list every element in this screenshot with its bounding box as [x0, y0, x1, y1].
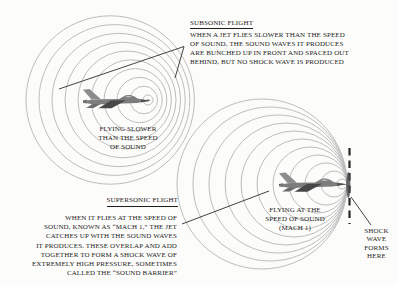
- text-line: (MACH 1): [245, 224, 345, 233]
- text-line: WHEN IT FLIES AT THE SPEED OF: [2, 214, 177, 223]
- subsonic-heading-text: SUBSONIC FLIGHT: [190, 19, 253, 30]
- text-line: CALLED THE “SOUND BARRIER”: [2, 269, 177, 278]
- supersonic-heading-text: SUPERSONIC FLIGHT: [107, 196, 178, 207]
- text-line: WHEN A JET FLIES SLOWER THAN THE SPEED: [190, 31, 349, 40]
- text-line: SOUND, KNOWN AS “MACH 1,” THE JET: [2, 223, 177, 232]
- supersonic-jet-label: FLYING AT THE SPEED OF SOUND (MACH 1): [245, 206, 345, 234]
- text-line: HERE: [356, 252, 397, 260]
- text-line: WAVE: [356, 235, 397, 243]
- shock-convergence-streak: [346, 172, 350, 198]
- text-line: FLYING AT THE: [245, 206, 345, 215]
- subsonic-description: WHEN A JET FLIES SLOWER THAN THE SPEED O…: [190, 31, 349, 68]
- text-line: OF SOUND: [73, 143, 183, 152]
- flight-sound-wave-diagram: SUBSONIC FLIGHT WHEN A JET FLIES SLOWER …: [0, 0, 397, 285]
- text-line: TOGETHER TO FORM A SHOCK WAVE OF: [2, 251, 177, 260]
- text-line: CATCHES UP WITH THE SOUND WAVES: [2, 232, 177, 241]
- supersonic-description: WHEN IT FLIES AT THE SPEED OF SOUND, KNO…: [2, 214, 177, 278]
- text-line: SHOCK: [356, 227, 397, 235]
- subsonic-pointer-line: [59, 47, 184, 90]
- supersonic-heading: SUPERSONIC FLIGHT: [58, 196, 178, 207]
- text-line: EXTREMELY HIGH PRESSURE, SOMETIMES: [2, 260, 177, 269]
- text-line: FLYING SLOWER: [73, 125, 183, 134]
- supersonic-jet: [279, 173, 347, 192]
- shock-pointer-line: [351, 197, 371, 225]
- text-line: FORMS: [356, 244, 397, 252]
- shock-wave-label: SHOCK WAVE FORMS HERE: [356, 227, 397, 261]
- subsonic-jet-label: FLYING SLOWER THAN THE SPEED OF SOUND: [73, 125, 183, 153]
- subsonic-heading: SUBSONIC FLIGHT: [190, 19, 253, 30]
- text-line: IT PRODUCES. THESE OVERLAP AND ADD: [2, 242, 177, 251]
- text-line: OF SOUND, THE SOUND WAVES IT PRODUCES: [190, 40, 349, 49]
- text-line: SPEED OF SOUND: [245, 215, 345, 224]
- text-line: ARE BUNCHED UP IN FRONT AND SPACED OUT: [190, 49, 349, 58]
- text-line: BEHIND, BUT NO SHOCK WAVE IS PRODUCED: [190, 58, 349, 67]
- text-line: THAN THE SPEED: [73, 134, 183, 143]
